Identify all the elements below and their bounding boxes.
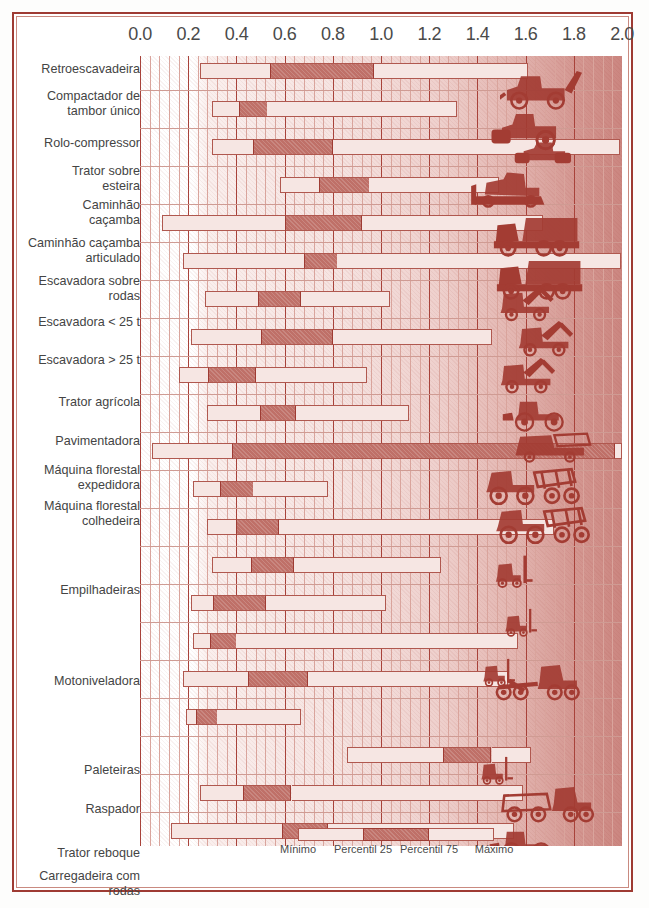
range-bar <box>212 557 441 573</box>
segment-min-to-p25 <box>212 557 251 573</box>
segment-p25-to-p75 <box>208 367 256 383</box>
harvester-icon <box>480 501 596 549</box>
forklift-reach-icon <box>492 546 564 598</box>
segment-min-to-p25 <box>200 785 243 801</box>
plot-area <box>140 56 622 846</box>
range-bar <box>200 785 523 801</box>
segment-p25-to-p75 <box>248 671 308 687</box>
range-bar <box>205 291 391 307</box>
legend-label: Mínimo <box>280 843 316 855</box>
range-bar <box>186 709 302 725</box>
segment-min-to-p25 <box>193 481 220 497</box>
segment-p25-to-p75 <box>304 253 338 269</box>
x-tick-label: 1.6 <box>514 24 538 45</box>
x-tick-label: 0.8 <box>321 24 345 45</box>
segment-p75-to-max <box>308 671 508 687</box>
segment-p25-to-p75 <box>236 519 279 535</box>
gridline-major <box>140 56 141 846</box>
legend-gradient-bar <box>298 828 494 841</box>
x-tick-label: 1.8 <box>562 24 586 45</box>
segment-min-to-p25 <box>162 215 285 231</box>
row-label: Empilhadeiras <box>14 583 140 598</box>
range-bar <box>200 63 528 79</box>
forklift-icon <box>502 596 564 650</box>
row-label: Rolo-compressor <box>14 136 140 151</box>
row-label-column: RetroescavadeiraCompactador de tambor ún… <box>14 56 140 846</box>
range-bar <box>193 633 518 649</box>
motor-grader-icon <box>490 660 594 706</box>
segment-p75-to-max <box>301 291 390 307</box>
segment-p75-to-max <box>615 443 622 459</box>
x-tick-label: 0.2 <box>176 24 200 45</box>
segment-p25-to-p75 <box>261 329 333 345</box>
row-label: Escavadora < 25 t <box>14 315 140 330</box>
row-label: Máquina florestal colhedeira <box>14 499 140 528</box>
row-separator <box>140 774 622 775</box>
row-label: Trator sobre esteira <box>14 164 140 193</box>
range-bar <box>179 367 367 383</box>
row-label: Carregadeira com rodas <box>14 869 140 898</box>
segment-min-to-p25 <box>212 139 253 155</box>
range-bar <box>162 215 543 231</box>
segment-p75-to-max <box>253 481 328 497</box>
segment-p75-to-max <box>267 101 457 117</box>
segment-min-to-p25 <box>193 633 210 649</box>
segment-min-to-p25 <box>347 747 443 763</box>
row-label: Trator agrícola <box>14 395 140 410</box>
row-label: Retroescavadeira <box>14 62 140 77</box>
segment-min-to-p25 <box>205 291 258 307</box>
segment-p25-to-p75 <box>319 177 370 193</box>
segment-p75-to-max <box>296 405 409 421</box>
range-bar <box>191 595 386 611</box>
row-label: Pavimentadora <box>14 434 140 449</box>
segment-p75-to-max <box>256 367 367 383</box>
segment-min-to-p25 <box>191 595 213 611</box>
x-tick-label: 0.0 <box>128 24 152 45</box>
row-label: Paleteiras <box>14 763 140 778</box>
range-bar <box>207 405 409 421</box>
gridline-minor <box>150 56 151 846</box>
range-bar <box>193 481 328 497</box>
chart-page: 0.00.20.40.60.81.01.21.41.61.82.0 Retroe… <box>0 0 649 908</box>
segment-min-to-p25 <box>183 671 248 687</box>
segment-min-to-p25 <box>280 177 319 193</box>
segment-min-to-p25 <box>152 443 232 459</box>
row-separator <box>140 736 622 737</box>
segment-min-to-p25 <box>212 101 239 117</box>
row-label: Caminhão caçamba <box>14 198 140 227</box>
segment-p25-to-p75 <box>220 481 254 497</box>
x-tick-label: 0.4 <box>225 24 249 45</box>
row-label: Escavadora > 25 t <box>14 353 140 368</box>
segment-min-to-p25 <box>191 329 261 345</box>
row-label: Máquina florestal expedidora <box>14 463 140 492</box>
segment-min-to-p25 <box>200 63 270 79</box>
segment-p75-to-max <box>294 557 441 573</box>
segment-min-to-p25 <box>207 519 236 535</box>
dump-truck-icon <box>490 211 592 259</box>
legend-label: Máximo <box>475 843 514 855</box>
segment-p25-to-p75 <box>196 709 218 725</box>
x-tick-label: 1.0 <box>369 24 393 45</box>
segment-p25-to-p75 <box>253 139 333 155</box>
segment-p75-to-max <box>266 595 386 611</box>
x-tick-label: 1.4 <box>466 24 490 45</box>
crawler-tractor-icon <box>470 169 566 215</box>
range-bar <box>183 671 508 687</box>
range-bar <box>212 101 458 117</box>
segment-min-to-p25 <box>183 253 304 269</box>
segment-p25-to-p75 <box>243 785 291 801</box>
segment-p25-to-p75 <box>239 101 268 117</box>
segment-p25-to-p75 <box>213 595 266 611</box>
legend-interquartile-segment <box>363 828 429 841</box>
segment-p25-to-p75 <box>210 633 237 649</box>
segment-p75-to-max <box>217 709 301 725</box>
legend-label: Percentil 25 <box>334 843 392 855</box>
segment-p75-to-max <box>333 329 492 345</box>
segment-p25-to-p75 <box>260 405 296 421</box>
segment-min-to-p25 <box>186 709 196 725</box>
segment-p25-to-p75 <box>251 557 294 573</box>
segment-p25-to-p75 <box>258 291 301 307</box>
segment-min-to-p25 <box>207 405 260 421</box>
segment-p75-to-max <box>236 633 518 649</box>
segment-p25-to-p75 <box>270 63 374 79</box>
